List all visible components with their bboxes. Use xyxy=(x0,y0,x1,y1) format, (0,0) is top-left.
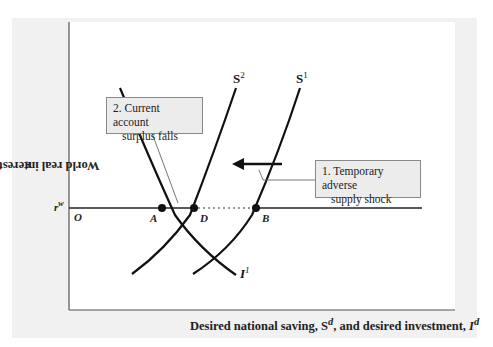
curve-I1-label: I1 xyxy=(240,265,250,282)
y-axis-label: World real interest rate, rw xyxy=(18,20,44,310)
point-B-label: B xyxy=(262,212,269,224)
curve-S2-label: S2 xyxy=(233,70,245,87)
point-D-label: D xyxy=(200,212,208,224)
origin-label: O xyxy=(74,211,82,223)
point-A-marker xyxy=(158,204,166,212)
point-A-label: A xyxy=(150,212,157,224)
x-axis-label: Desired national saving, Sd, and desired… xyxy=(190,316,479,334)
shift-arrow-head-icon xyxy=(232,158,244,170)
curve-S1-label: S1 xyxy=(296,70,308,87)
rw-tick-label: rw xyxy=(54,199,64,213)
callout-supply-shock: 1. Temporary adverse supply shock xyxy=(315,160,421,198)
point-B-marker xyxy=(252,204,260,212)
saving-curve-S1 xyxy=(193,88,300,274)
callout-current-account: 2. Current account surplus falls xyxy=(106,97,203,134)
point-D-marker xyxy=(190,204,198,212)
